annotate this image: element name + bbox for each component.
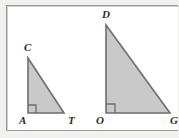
vertex-label-g: G — [170, 115, 178, 126]
vertex-label-d: D — [102, 9, 110, 20]
triangle-dog-group — [106, 25, 170, 113]
vertex-label-a: A — [19, 115, 26, 126]
vertex-label-c: C — [24, 42, 31, 53]
triangle-cat-group — [28, 58, 64, 113]
triangle-dog-shape — [106, 25, 170, 113]
vertex-label-o: O — [96, 115, 104, 126]
figure-screenshot: C A T D O G — [0, 0, 179, 138]
geometry-canvas — [0, 0, 179, 138]
vertex-label-t: T — [68, 115, 75, 126]
